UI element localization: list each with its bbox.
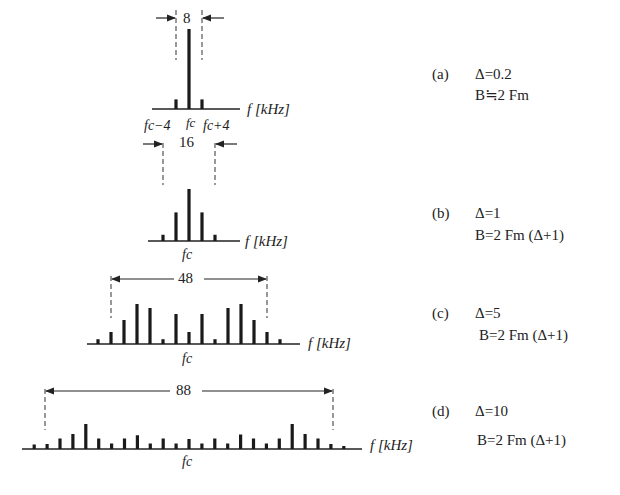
panel-a-center-label: fc (186, 116, 195, 129)
panel-a-spectrum (152, 10, 240, 109)
caption-a-delta: Δ=0.2 (475, 67, 512, 82)
panel-c-bandwidth-value: 48 (178, 271, 193, 286)
caption-a-tag: (a) (432, 67, 449, 82)
caption-c-formula: B=2 Fm (Δ+1) (479, 328, 568, 343)
panel-b-center-label: fc (182, 248, 192, 262)
panel-d-axis-label: f [kHz] (370, 438, 413, 453)
fm-spectrum-diagram (0, 0, 620, 495)
panel-b-axis-label: f [kHz] (245, 234, 288, 249)
caption-c-delta: Δ=5 (475, 306, 501, 321)
panel-c-center-label: fc (182, 352, 192, 366)
panel-c-axis-label: f [kHz] (308, 336, 351, 351)
caption-b-delta: Δ=1 (475, 206, 501, 221)
panel-a-left-sideband-label: fc−4 (144, 119, 171, 133)
caption-b-tag: (b) (432, 206, 450, 221)
panel-d-bandwidth-value: 88 (176, 383, 191, 398)
caption-d-formula: B=2 Fm (Δ+1) (477, 433, 566, 448)
panel-b-spectrum (143, 143, 240, 241)
caption-d-delta: Δ=10 (475, 404, 508, 419)
caption-a-formula: B≒2 Fm (475, 88, 529, 103)
panel-c-spectrum (87, 276, 300, 344)
caption-b-formula: B=2 Fm (Δ+1) (475, 228, 564, 243)
panel-a-right-sideband-label: fc+4 (203, 119, 230, 133)
panel-b-bandwidth-value: 16 (179, 135, 194, 150)
caption-d-tag: (d) (432, 404, 450, 419)
panel-a-axis-label: f [kHz] (247, 102, 290, 117)
caption-c-tag: (c) (432, 306, 449, 321)
panel-d-spectrum (22, 389, 362, 449)
panel-a-bandwidth-value: 8 (183, 11, 191, 26)
panel-d-center-label: fc (182, 455, 192, 469)
